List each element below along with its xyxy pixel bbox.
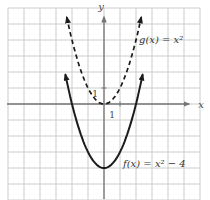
y-unit-tick-label: 1 [92, 89, 98, 99]
f-curve-label: f(x) = x² − 4 [122, 158, 186, 169]
x-unit-tick-label: 1 [109, 110, 115, 120]
y-axis-label: y [97, 1, 104, 12]
graph-canvas: y x 1 1 g(x) = x² f(x) = x² − 4 [0, 0, 210, 200]
function-graph-figure: y x 1 1 g(x) = x² f(x) = x² − 4 [0, 0, 210, 200]
g-curve-label: g(x) = x² [139, 34, 183, 45]
x-axis-label: x [198, 99, 204, 110]
